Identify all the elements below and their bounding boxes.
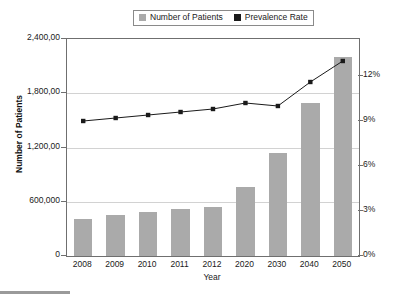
data-point-2040: [308, 80, 312, 84]
x-axis-title: Year: [66, 272, 358, 282]
data-point-2030: [276, 104, 280, 108]
y-tick-mark-left: [61, 255, 66, 256]
y-tick-mark-right: [358, 255, 363, 256]
x-tick-label-2008: 2008: [66, 259, 98, 269]
x-tick-label-2010: 2010: [131, 259, 163, 269]
y-tick-mark-left: [61, 92, 66, 93]
y-tick-label-right: 6%: [363, 160, 403, 169]
y-tick-label-right: 0%: [363, 250, 403, 259]
legend-entry-number-of-patients: Number of Patients: [139, 13, 223, 22]
legend-label-number-of-patients: Number of Patients: [150, 13, 223, 22]
y-tick-mark-left: [61, 38, 66, 39]
prevalence-rate-line: [83, 61, 343, 121]
x-tick-label-2012: 2012: [196, 259, 228, 269]
y-tick-mark-left: [61, 147, 66, 148]
data-point-2009: [113, 116, 117, 120]
y-tick-label-right: 3%: [363, 205, 403, 214]
y-tick-label-left: 1,800,00: [0, 87, 60, 96]
legend-label-prevalence-rate: Prevalence Rate: [245, 13, 308, 22]
plot-area: [66, 38, 360, 257]
chart-figure: Number of Patients Prevalence Rate Numbe…: [0, 0, 409, 298]
x-tick-label-2009: 2009: [98, 259, 130, 269]
x-tick-label-2011: 2011: [163, 259, 195, 269]
gridline: [67, 256, 359, 257]
legend-entry-prevalence-rate: Prevalence Rate: [234, 13, 308, 22]
y-tick-mark-right: [358, 75, 363, 76]
y-tick-label-right: 9%: [363, 115, 403, 124]
data-point-2010: [146, 113, 150, 117]
y-tick-mark-right: [358, 165, 363, 166]
chart-legend: Number of Patients Prevalence Rate: [133, 10, 314, 26]
y-tick-mark-left: [61, 201, 66, 202]
y-tick-label-right: 12%: [363, 70, 403, 79]
line-series-prevalence-rate: [67, 39, 359, 256]
data-point-2050: [341, 59, 345, 63]
data-point-2020: [243, 101, 247, 105]
data-point-2008: [81, 119, 85, 123]
y-tick-label-left: 600,000: [0, 196, 60, 205]
y-tick-label-left: 0: [0, 250, 60, 259]
y-tick-label-left: 2,400,00: [0, 33, 60, 42]
data-point-2012: [211, 107, 215, 111]
x-tick-label-2030: 2030: [261, 259, 293, 269]
y-tick-mark-right: [358, 210, 363, 211]
y-axis-title: Number of Patients: [14, 59, 24, 209]
y-tick-mark-right: [358, 120, 363, 121]
legend-swatch-number-of-patients: [139, 14, 146, 21]
page-divider-rule: [0, 291, 70, 294]
x-tick-label-2040: 2040: [293, 259, 325, 269]
y-tick-label-left: 1,200,00: [0, 142, 60, 151]
legend-swatch-prevalence-rate: [234, 14, 241, 21]
data-point-2011: [178, 110, 182, 114]
x-tick-label-2020: 2020: [228, 259, 260, 269]
x-tick-label-2050: 2050: [326, 259, 358, 269]
